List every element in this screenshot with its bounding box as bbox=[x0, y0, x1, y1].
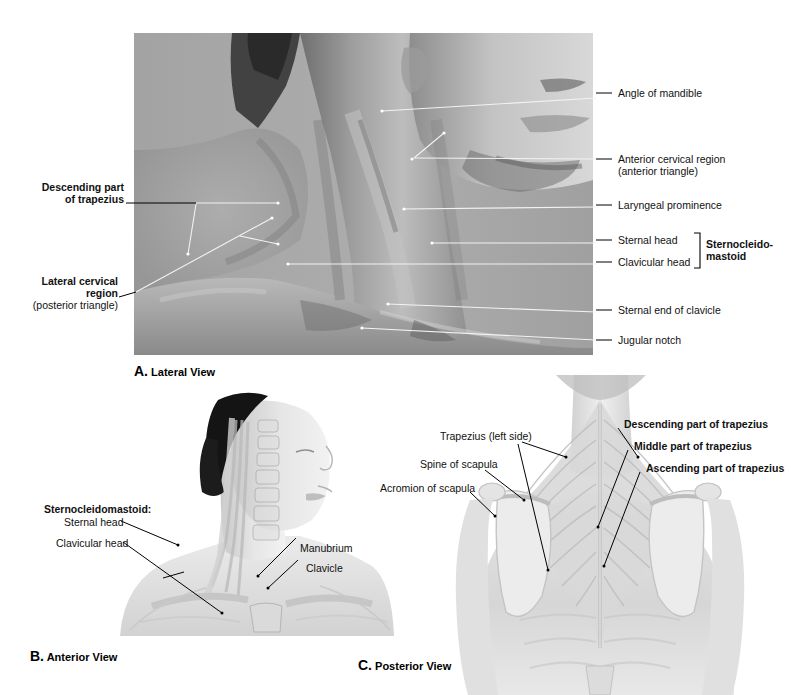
panel-c-caption: C. Posterior View bbox=[358, 657, 451, 673]
panel-c-label-spine-of-scapula: Spine of scapula bbox=[420, 458, 498, 470]
panel-c-label-middle-part-of-trapezius: Middle part of trapezius bbox=[634, 440, 752, 452]
panel-c-label-acromion-of-scapula: Acromion of scapula bbox=[380, 482, 475, 494]
caption-letter: C. bbox=[358, 657, 372, 673]
anatomy-figure-plate: Descending part of trapezius Lateral cer… bbox=[0, 0, 791, 695]
label-main: Trapezius bbox=[440, 430, 486, 442]
panel-c-label-descending-part-of-trapezius: Descending part of trapezius bbox=[624, 418, 768, 430]
panel-c-label-ascending-part-of-trapezius: Ascending part of trapezius bbox=[646, 462, 784, 474]
label-suffix: (left side) bbox=[486, 430, 532, 442]
caption-text: Posterior View bbox=[375, 660, 451, 672]
panel-c-illustration bbox=[0, 0, 791, 695]
panel-c-label-trapezius-left-side: Trapezius (left side) bbox=[440, 430, 532, 442]
